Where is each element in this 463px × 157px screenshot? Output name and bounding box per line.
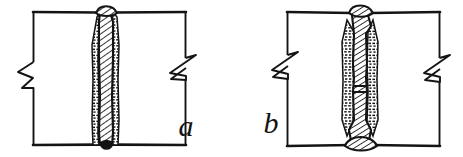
figure-label-a: a (179, 109, 194, 142)
weld-crown-b-top (349, 6, 373, 17)
figure-label-b: b (264, 106, 279, 139)
plate-bottom-edge-b-left (287, 145, 352, 146)
weld-root-a-bottom (100, 141, 113, 149)
canvas-background (0, 0, 463, 157)
plate-top-edge-a-right (113, 12, 186, 13)
plate-top-edge-a-left (33, 12, 99, 13)
plate-bottom-edge-b-right (371, 145, 440, 146)
plate-top-edge-b-left (287, 12, 352, 13)
figure-plate: a (0, 0, 463, 157)
weld-crown-a-top (96, 6, 117, 16)
plate-top-edge-b-right (371, 12, 440, 13)
welded-joint-illustration: a (0, 0, 463, 157)
